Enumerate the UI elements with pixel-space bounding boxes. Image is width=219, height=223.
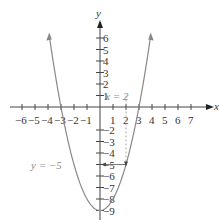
x-tick-label: −1 — [80, 114, 92, 126]
y-tick-label: 5 — [103, 44, 109, 56]
x-tick-label: −6 — [15, 114, 27, 126]
y-tick-label: 6 — [103, 32, 109, 44]
x-tick-label: −5 — [28, 114, 40, 126]
y-axis-arrow-icon — [97, 20, 103, 28]
y-eq-m5-label: y = −5 — [30, 159, 62, 171]
curve-arrow-left-icon — [46, 33, 52, 41]
x-tick-label: 5 — [162, 114, 168, 126]
x-tick-label: 6 — [175, 114, 181, 126]
x-tick-label: −2 — [67, 114, 79, 126]
x-tick-label: 7 — [188, 114, 194, 126]
y-tick-label: 4 — [103, 55, 109, 67]
y-axis-label: y — [95, 7, 101, 19]
x-axis-arrow-icon — [206, 104, 214, 110]
x-tick-label: −4 — [41, 114, 53, 126]
y-tick-label: 3 — [103, 67, 109, 79]
y-tick-label: −3 — [103, 136, 115, 148]
y-tick-label: −6 — [103, 170, 115, 182]
x-axis-label: x — [213, 100, 219, 112]
curve-arrow-right-icon — [148, 33, 154, 41]
x-eq-2-label: x = 2 — [104, 90, 129, 102]
x-tick-label: 4 — [149, 114, 155, 126]
y-tick-label: −7 — [103, 182, 115, 194]
y-tick-label: −9 — [103, 205, 115, 217]
y-tick-label: −2 — [103, 124, 115, 136]
y-tick-label: 2 — [103, 78, 109, 90]
parabola-graph: xy−6−5−4−3−2−11234567654321−2−3−4−5−6−7−… — [0, 0, 219, 223]
y-tick-label: −4 — [103, 147, 115, 159]
